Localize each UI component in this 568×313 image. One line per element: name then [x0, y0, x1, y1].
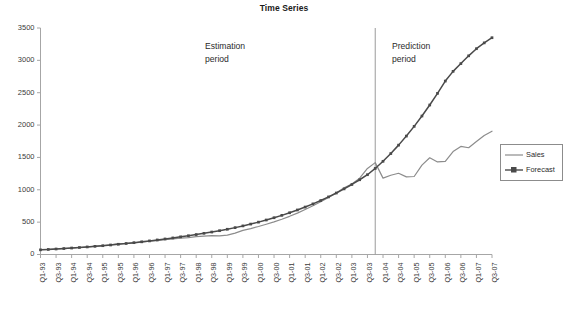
y-tick-label: 1000 [18, 185, 35, 194]
x-tick-label: Q1-07 [474, 263, 483, 283]
series-marker-forecast [460, 62, 463, 65]
series-marker-forecast [249, 223, 252, 226]
x-tick-label: Q3-98 [209, 263, 218, 283]
series-marker-forecast [70, 247, 73, 250]
series-marker-forecast [63, 247, 66, 250]
series-marker-forecast [405, 135, 408, 138]
x-tick-label: Q3-04 [396, 263, 405, 283]
series-marker-forecast [265, 219, 268, 222]
series-marker-forecast [140, 240, 143, 243]
series-marker-forecast [171, 237, 174, 240]
series-marker-forecast [39, 248, 42, 251]
legend-marker-forecast [511, 167, 517, 173]
x-tick-label: Q1-98 [194, 263, 203, 283]
x-tick-label: Q3-97 [178, 263, 187, 283]
y-tick-label: 2500 [18, 88, 35, 97]
series-marker-forecast [389, 152, 392, 155]
x-tick-label: Q3-01 [303, 263, 312, 283]
x-tick-label: Q1-04 [381, 263, 390, 283]
x-tick-label: Q3-94 [85, 263, 94, 283]
series-marker-forecast [133, 241, 136, 244]
series-marker-forecast [109, 244, 112, 247]
x-tick-label: Q3-99 [240, 263, 249, 283]
series-marker-forecast [374, 167, 377, 170]
prediction-period-label-line2: period [392, 54, 416, 64]
time-series-chart: Time Series 0500100015002000250030003500… [0, 0, 568, 313]
series-marker-forecast [125, 242, 128, 245]
x-tick-label: Q3-06 [458, 263, 467, 283]
y-tick-label: 0 [30, 249, 34, 258]
series-marker-forecast [343, 188, 346, 191]
x-tick-label: Q1-06 [443, 263, 452, 283]
series-marker-forecast [47, 248, 50, 251]
x-tick-label: Q3-00 [272, 263, 281, 283]
legend-label-forecast[interactable]: Forecast [526, 165, 555, 174]
series-marker-forecast [117, 243, 120, 246]
chart-plot-area: 0500100015002000250030003500 Q1-93Q3-93Q… [0, 0, 568, 313]
x-tick-label: Q3-02 [334, 263, 343, 283]
series-marker-forecast [210, 231, 213, 234]
x-tick-label: Q1-96 [131, 263, 140, 283]
x-tick-label: Q3-03 [365, 263, 374, 283]
series-marker-forecast [304, 206, 307, 209]
series-marker-forecast [312, 203, 315, 206]
series-marker-forecast [444, 80, 447, 83]
series-marker-forecast [413, 125, 416, 128]
x-tick-label: Q1-05 [412, 263, 421, 283]
x-tick-label: Q3-96 [147, 263, 156, 283]
series-marker-forecast [179, 235, 182, 238]
series-marker-forecast [288, 211, 291, 214]
x-tick-label: Q1-94 [69, 263, 78, 283]
y-tick-label: 1500 [18, 152, 35, 161]
series-marker-forecast [156, 239, 159, 242]
series-line-forecast [41, 38, 493, 250]
series-marker-forecast [483, 42, 486, 45]
series-marker-forecast [351, 183, 354, 186]
series-marker-forecast [203, 232, 206, 235]
x-tick-label: Q3-07 [490, 263, 499, 283]
series-marker-forecast [327, 196, 330, 199]
series-marker-forecast [148, 240, 151, 243]
prediction-period-label-line1: Prediction [392, 41, 430, 51]
x-tick-label: Q3-95 [116, 263, 125, 283]
series-line-sales [41, 131, 493, 249]
series-marker-forecast [86, 246, 89, 249]
series-marker-forecast [366, 173, 369, 176]
series-marker-forecast [273, 216, 276, 219]
x-tick-label: Q3-93 [54, 263, 63, 283]
series-marker-forecast [234, 226, 237, 229]
x-tick-label: Q1-00 [256, 263, 265, 283]
series-marker-forecast [335, 192, 338, 195]
x-axis: Q1-93Q3-93Q1-94Q3-94Q1-95Q3-95Q1-96Q3-96… [38, 255, 499, 283]
series-marker-forecast [421, 115, 424, 118]
series-marker-forecast [187, 234, 190, 237]
x-tick-label: Q1-01 [287, 263, 296, 283]
x-tick-label: Q1-97 [163, 263, 172, 283]
series-marker-forecast [164, 238, 167, 241]
series-marker-forecast [226, 228, 229, 231]
x-tick-label: Q3-05 [427, 263, 436, 283]
series-marker-forecast [358, 178, 361, 181]
x-tick-label: Q1-02 [318, 263, 327, 283]
series-marker-forecast [257, 221, 260, 224]
series-marker-forecast [280, 214, 283, 217]
series-marker-forecast [296, 209, 299, 212]
estimation-period-label-line1: Estimation [205, 41, 245, 51]
x-tick-label: Q1-03 [349, 263, 358, 283]
series-marker-forecast [475, 47, 478, 50]
x-tick-label: Q1-99 [225, 263, 234, 283]
series-marker-forecast [397, 144, 400, 147]
y-tick-label: 3500 [18, 23, 35, 32]
series-marker-forecast [78, 246, 81, 249]
x-tick-label: Q1-93 [38, 263, 47, 283]
series-marker-forecast [195, 233, 198, 236]
series-marker-forecast [218, 229, 221, 232]
y-tick-label: 500 [22, 217, 35, 226]
series-marker-forecast [382, 160, 385, 163]
y-axis: 0500100015002000250030003500 [18, 23, 41, 259]
x-tick-label: Q1-95 [100, 263, 109, 283]
series-marker-forecast [101, 244, 104, 247]
series-marker-forecast [55, 248, 58, 251]
estimation-period-label-line2: period [205, 54, 229, 64]
legend-label-sales[interactable]: Sales [526, 150, 545, 159]
